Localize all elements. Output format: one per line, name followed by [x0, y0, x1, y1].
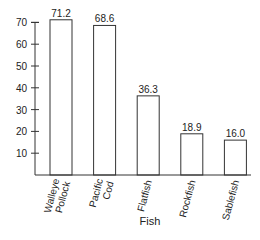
svg-text:Flatfish: Flatfish: [135, 179, 154, 213]
bar-value-label: 16.0: [226, 128, 246, 139]
bar-value-label: 36.3: [138, 84, 158, 95]
bar-value-label: 68.6: [95, 13, 115, 24]
bar-value-label: 18.9: [182, 122, 202, 133]
x-tick-label: Rockfish: [177, 179, 198, 219]
x-tick-label: PacificCod: [87, 177, 116, 211]
x-tick-label: Flatfish: [135, 179, 154, 213]
bar: [50, 20, 72, 175]
bar: [224, 140, 246, 175]
y-tick-label: 60: [16, 39, 28, 50]
bar: [181, 134, 203, 175]
bar: [137, 96, 159, 175]
svg-text:Sablefish: Sablefish: [220, 179, 241, 222]
bars: 71.268.636.318.916.0: [50, 8, 246, 175]
y-tick-label: 50: [16, 61, 28, 72]
bar: [94, 25, 116, 175]
x-tick-label: WalleyePollock: [42, 176, 73, 217]
y-axis: 10203040506070: [16, 17, 39, 175]
x-axis-label: Fish: [140, 215, 161, 227]
bar-chart: 10203040506070 71.268.636.318.916.0 Wall…: [0, 0, 260, 240]
y-tick-label: 70: [16, 17, 28, 28]
y-tick-label: 10: [16, 148, 28, 159]
svg-text:Rockfish: Rockfish: [177, 179, 198, 219]
y-tick-label: 30: [16, 105, 28, 116]
x-tick-label: Sablefish: [220, 179, 241, 222]
y-tick-label: 40: [16, 83, 28, 94]
bar-value-label: 71.2: [51, 8, 71, 19]
y-tick-label: 20: [16, 126, 28, 137]
